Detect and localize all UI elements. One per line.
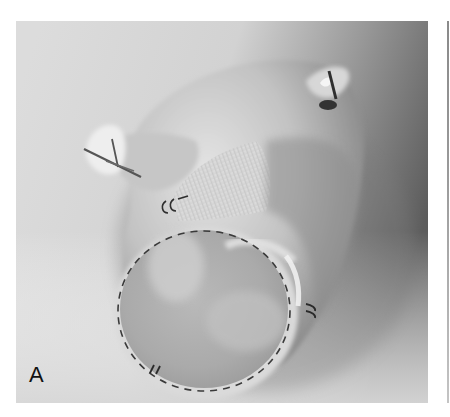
panel-label: A	[29, 364, 44, 386]
specimen-image	[16, 21, 428, 403]
adjacent-panel-edge	[447, 21, 449, 403]
figure-panel: A	[0, 0, 450, 417]
specimen-photo	[16, 21, 428, 403]
